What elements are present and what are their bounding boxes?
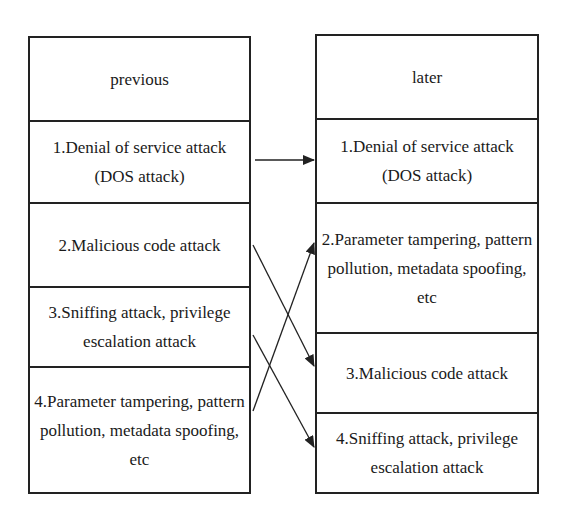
arrow-3-to-4 <box>253 335 314 447</box>
mapping-arrows <box>0 0 566 524</box>
arrow-4-to-2 <box>253 243 314 411</box>
arrow-2-to-3 <box>253 245 314 366</box>
